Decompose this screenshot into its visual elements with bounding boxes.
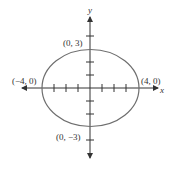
point-label-right: (4, 0): [141, 76, 161, 86]
point-label-left: (−4, 0): [12, 76, 37, 86]
ellipse-chart: y x (0, 3) (−4, 0) (4, 0) (0, −3): [0, 0, 173, 169]
point-label-top: (0, 3): [63, 38, 83, 48]
x-axis-label: x: [159, 85, 164, 95]
point-label-bottom: (0, −3): [56, 132, 81, 142]
y-axis-label: y: [87, 5, 92, 15]
